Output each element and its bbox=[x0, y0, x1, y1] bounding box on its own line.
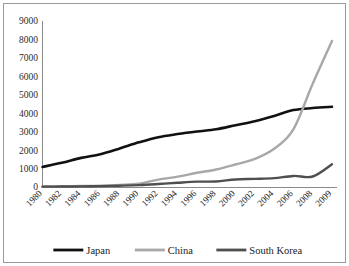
y-axis-tick-labels: 9000800070006000500040003000200010000 bbox=[19, 16, 38, 192]
x-tick-label: 2006 bbox=[275, 188, 295, 208]
y-tick-label: 5000 bbox=[19, 90, 38, 100]
x-tick-label: 1988 bbox=[101, 188, 121, 208]
x-tick-label: 2009 bbox=[313, 188, 333, 208]
x-tick-label: 1984 bbox=[62, 188, 82, 208]
legend-label: China bbox=[168, 245, 193, 256]
chart-axes bbox=[43, 21, 338, 188]
x-axis-tick-labels: 1980198219841986198819901992199419961998… bbox=[24, 188, 334, 208]
y-tick-label: 4000 bbox=[19, 109, 38, 119]
y-tick-label: 1000 bbox=[19, 164, 38, 174]
x-tick-label: 1990 bbox=[120, 188, 140, 208]
y-tick-label: 3000 bbox=[19, 127, 38, 137]
chart-figure: 9000800070006000500040003000200010000 19… bbox=[0, 0, 349, 266]
y-tick-label: 6000 bbox=[19, 72, 38, 82]
y-tick-label: 2000 bbox=[19, 146, 38, 156]
x-tick-label: 1996 bbox=[178, 188, 198, 208]
chart-legend: JapanChinaSouth Korea bbox=[53, 245, 302, 256]
x-tick-label: 1982 bbox=[43, 188, 63, 208]
x-tick-label: 1992 bbox=[140, 188, 160, 208]
y-tick-label: 9000 bbox=[19, 16, 38, 26]
x-tick-label: 2002 bbox=[236, 188, 256, 208]
x-tick-label: 2004 bbox=[255, 188, 275, 208]
x-tick-label: 1986 bbox=[82, 188, 102, 208]
legend-label: Japan bbox=[86, 245, 111, 256]
legend-label: South Korea bbox=[249, 245, 302, 256]
x-tick-label: 1998 bbox=[198, 188, 218, 208]
x-tick-label: 1994 bbox=[159, 188, 179, 208]
x-tick-label: 2000 bbox=[217, 188, 237, 208]
x-tick-label: 1980 bbox=[24, 188, 44, 208]
y-tick-label: 8000 bbox=[19, 35, 38, 45]
series-line-china bbox=[43, 41, 333, 187]
line-chart: 9000800070006000500040003000200010000 19… bbox=[0, 0, 349, 266]
y-tick-label: 7000 bbox=[19, 53, 38, 63]
data-series-group bbox=[43, 41, 333, 187]
x-tick-label: 2008 bbox=[294, 188, 314, 208]
